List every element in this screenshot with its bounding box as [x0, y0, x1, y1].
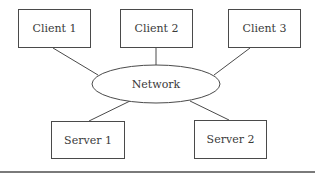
- server-2-label: Server 2: [207, 133, 255, 146]
- node-client-2: Client 2: [121, 10, 193, 48]
- edge-client3-network: [214, 48, 250, 75]
- node-client-1: Client 1: [19, 10, 91, 48]
- node-network: Network: [92, 65, 220, 103]
- client-3-label: Client 3: [243, 22, 287, 35]
- edge-server2-network: [190, 101, 229, 120]
- node-client-3: Client 3: [229, 10, 301, 48]
- client-2-label: Client 2: [135, 22, 179, 35]
- network-diagram: Client 1 Client 2 Client 3 Network Serve…: [0, 0, 315, 174]
- node-server-2: Server 2: [195, 121, 267, 159]
- node-server-1: Server 1: [52, 122, 125, 159]
- edge-server1-network: [89, 101, 130, 121]
- server-1-label: Server 1: [64, 134, 112, 147]
- client-1-label: Client 1: [33, 22, 77, 35]
- network-label: Network: [132, 78, 181, 91]
- edge-client1-network: [53, 48, 98, 75]
